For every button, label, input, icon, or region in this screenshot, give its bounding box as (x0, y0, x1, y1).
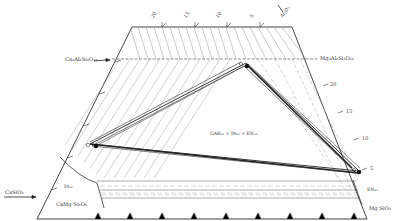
camgsi2o6-label: CaMg Si₂O₆ (56, 202, 87, 207)
field-center-label: GAR₁₁ + Di₁₁ + EN₁₁ (210, 131, 258, 136)
marker-di (94, 144, 98, 148)
top-ticks (162, 22, 264, 27)
marker-en (357, 170, 361, 174)
mgsio3-label: Mg SiO₃ (369, 206, 391, 211)
right-tick-label: 10 (362, 136, 368, 141)
marker-gar (245, 64, 249, 68)
phase-diagram: Ca₃Al₂Si₃O₁₂ Mg₃Al₂Si₃O₁₂ Al₂O₃ CaSiO₃ C… (0, 0, 396, 221)
field-di-label: Di₁₁ (64, 184, 73, 189)
lower-horizontal-lines (97, 181, 360, 198)
left-ticks (51, 60, 121, 190)
en-field-boundary (353, 180, 362, 205)
right-tick-label: 5 (370, 166, 373, 171)
right-tick-label: 15 (346, 109, 352, 114)
casio3-label: CaSiO₃ (5, 190, 24, 195)
diagram-svg (0, 0, 396, 221)
lower-dashed-lines (100, 186, 359, 195)
field-en-label: EN₁₁ (367, 187, 378, 192)
bottom-ticks (95, 213, 357, 219)
tie-line-triangles (90, 62, 360, 173)
upper-hatch (130, 27, 306, 59)
label-arrows (4, 5, 283, 199)
diagonal-hatch (30, 59, 230, 200)
pyrope-label: Mg₃Al₂Si₃O₁₂ (320, 56, 354, 61)
grossular-label: Ca₃Al₂Si₃O₁₂ (65, 57, 97, 62)
right-tick-label: 20 (330, 82, 336, 87)
